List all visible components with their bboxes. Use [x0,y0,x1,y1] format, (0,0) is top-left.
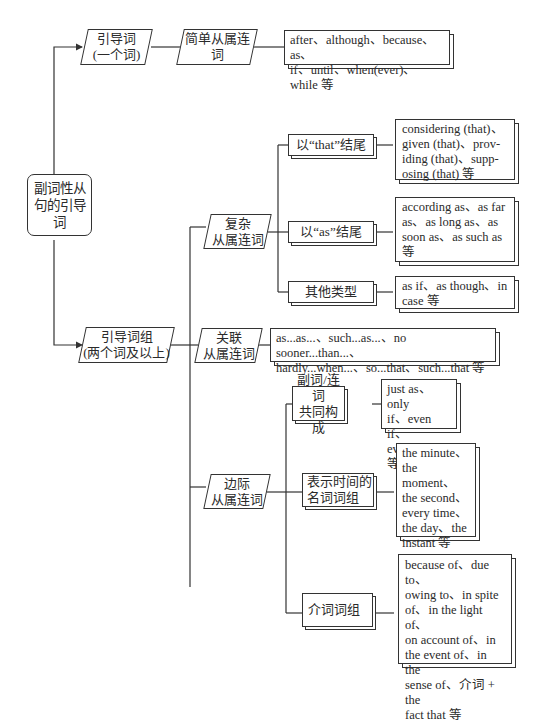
example-line: instant 等 [402,536,470,551]
prepositional-phrase-examples: because of、due to、 owing to、in spite of、… [398,554,512,664]
marginal-title: 边际 [224,476,250,492]
example-line: the day、the [402,521,470,536]
that-ending-examples: considering (that)、 given (that)、prov- i… [395,119,515,180]
example-line: because of、due to、 [405,558,505,588]
correlative-title: 关联 [216,330,242,346]
adverb-conjunction-node: 副词/连词 共同构成 [292,386,345,421]
correlative-subordinator-node: 关联 从属连词 [198,328,259,363]
marginal-subtitle: 从属连词 [211,492,263,508]
prepositional-phrase-node: 介词词组 [302,593,373,627]
single-word-subtitle: (一个词) [93,47,141,63]
that-ending-node: 以“that”结尾 [288,134,374,156]
simple-subordinator-node: 简单从属连词 [180,29,254,65]
that-ending-label: 以“that”结尾 [296,137,366,153]
time-noun-phrase-node: 表示时间的 名词词组 [302,473,374,507]
example-line: on account of、in [405,633,505,648]
adverb-conjunction-subtitle: 共同构成 [293,404,344,436]
single-word-title: 引导词 [97,31,136,47]
example-line: the event of、in the [405,648,505,678]
example-line: as if、as though、in [402,279,508,294]
example-line: according as、as far [402,200,508,215]
example-line: as、as long as、as [402,215,508,230]
example-line: soon as、as such as [402,230,508,245]
example-line: iding (that)、supp- [402,152,508,167]
single-word-node: 引导词 (一个词) [84,29,149,65]
example-line: every time、 [402,506,470,521]
example-line: just as、only [387,382,451,412]
word-group-subtitle: (两个词及以上) [83,345,170,361]
simple-subordinator-examples: after、although、because、as、 if、until、when… [284,30,450,65]
as-ending-examples: according as、as far as、as long as、as soo… [395,197,515,262]
prepositional-phrase-label: 介词词组 [308,602,360,618]
example-line: as...as...、such...as...、no sooner...than… [276,331,490,361]
marginal-subordinator-node: 边际 从属连词 [207,474,267,509]
example-line: of、in the light of、 [405,603,505,633]
complex-subtitle: 从属连词 [212,232,264,248]
example-line: after、although、because、as、 [290,33,444,63]
adverb-conjunction-examples: just as、only if、even if、 even when 等 [381,379,457,429]
time-noun-subtitle: 名词词组 [307,490,359,506]
example-line: fact that 等 [405,708,505,723]
complex-title: 复杂 [225,216,251,232]
other-types-label: 其他类型 [305,284,357,300]
adverb-conjunction-title: 副词/连词 [293,372,344,404]
example-line: the moment、 [402,461,470,491]
example-line: the minute、 [402,446,470,461]
time-noun-title: 表示时间的 [307,474,372,490]
complex-subordinator-node: 复杂 从属连词 [207,214,268,249]
word-group-node: 引导词组 (两个词及以上) [82,327,171,363]
example-line: if、until、when(ever)、while 等 [290,63,444,93]
as-ending-node: 以“as”结尾 [288,221,374,243]
example-line: the second、 [402,491,470,506]
other-types-node: 其他类型 [288,281,374,303]
example-line: owing to、in spite [405,588,505,603]
example-line: considering (that)、 [402,122,508,137]
example-line: case 等 [402,294,508,309]
root-label: 副词性从句的引导词 [32,180,88,231]
simple-subordinator-label: 简单从属连词 [180,31,254,63]
root-node: 副词性从句的引导词 [27,174,92,236]
example-line: if、even if、 [387,412,451,442]
other-types-examples: as if、as though、in case 等 [395,276,515,309]
example-line: osing (that) 等 [402,167,508,182]
as-ending-label: 以“as”结尾 [300,224,361,240]
word-group-title: 引导词组 [101,329,153,345]
correlative-examples: as...as...、such...as...、no sooner...than… [270,328,496,362]
example-line: given (that)、prov- [402,137,508,152]
example-line: sense of、介词 + the [405,678,505,708]
example-line: 等 [402,245,508,260]
time-noun-phrase-examples: the minute、 the moment、 the second、 ever… [396,443,476,537]
correlative-subtitle: 从属连词 [203,346,255,362]
